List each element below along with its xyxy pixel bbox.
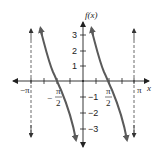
y-axis-label: f(x)	[85, 10, 98, 20]
svg-text:2: 2	[56, 98, 61, 108]
x-tick-label-neg-pi: −π	[20, 85, 30, 95]
y-tick-label-2: 2	[72, 46, 77, 56]
y-tick-label-neg2: −2	[88, 108, 98, 118]
y-tick-label-neg3: −3	[88, 124, 98, 134]
svg-text:π: π	[106, 86, 111, 96]
y-tick-label-1: 1	[72, 61, 77, 71]
x-axis-label: x	[146, 83, 151, 93]
y-tick-label-3: 3	[72, 30, 77, 40]
svg-text:2: 2	[106, 98, 111, 108]
curve-branch-left	[41, 30, 77, 140]
x-tick-label-neg-half-pi: − π 2	[47, 86, 62, 108]
svg-text:−: −	[47, 93, 52, 103]
y-tick-label-neg1: −1	[88, 92, 98, 102]
svg-text:π: π	[56, 86, 61, 96]
cotangent-chart: f(x) x −π π − π 2 π 2 3 2 1 −1 −2 −3	[0, 0, 161, 151]
x-tick-label-pi: π	[137, 85, 142, 95]
